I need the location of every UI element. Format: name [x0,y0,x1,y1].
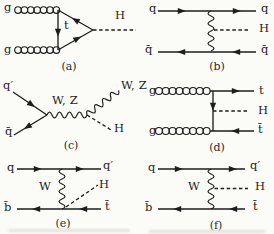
boson-wavy-line [208,11,214,51]
feynman-diagram-b-graphic [137,0,274,78]
panel-f: q q′ W H b̄ t̄ (f) [137,156,274,234]
particle-label-higgs: H [114,122,124,135]
particle-label-gluon-top: g [4,1,12,14]
boson-out-wavy [85,88,120,117]
w-boson-wavy-line [208,169,214,209]
scan-artifact [148,230,266,233]
particle-label-w-boson: W [188,180,200,193]
gluon-line-top [156,88,211,95]
particle-label-higgs: H [258,104,268,117]
particle-label-antitop-out: t̄ [258,123,263,136]
particle-label-higgs: H [115,9,125,22]
particle-label-quark-in: q [7,161,15,174]
panel-b: q q q̄ q̄ H (b) [137,0,274,78]
particle-label-higgs: H [99,178,109,191]
caption-b: (b) [209,60,225,73]
panel-d: g g t t̄ H (d) [137,78,274,156]
gluon-line-top [15,7,60,14]
boson-propagator-wavy [47,112,87,118]
particle-label-gluon-top: g [149,84,157,97]
feynman-diagram-d-graphic [137,78,274,156]
caption-d: (d) [209,141,225,154]
feynman-figure-canvas: g g t H (a) q q q̄ q̄ H (b) [0,0,274,234]
particle-label-antiquark-in: q̄ [145,43,153,56]
particle-label-antitop-out: t̄ [253,200,258,213]
particle-label-quark-out: q′ [103,159,113,172]
particle-label-antitop-out: t̄ [105,200,110,213]
particle-label-quark-out: q′ [250,159,260,172]
particle-label-antiquark-in: q̄ [5,125,13,138]
gluon-line-bottom [15,47,60,54]
particle-label-antiquark-out: q̄ [261,43,269,56]
higgs-dashed-line [66,185,98,207]
caption-a: (a) [61,60,76,73]
particle-label-quark-in: q′ [3,79,13,92]
panel-a: g g t H (a) [0,0,140,78]
panel-c: q′ q̄ W, Z W, Z H (c) [0,78,160,156]
particle-label-higgs: H [255,180,265,193]
particle-label-antibottom-in: b̄ [145,201,153,214]
particle-label-antibottom-in: b̄ [4,201,12,214]
fermion-arrowheads [22,100,36,132]
particle-label-quark-in: q [149,2,157,15]
gluon-line-bottom [156,128,211,135]
caption-c: (c) [64,139,79,152]
particle-label-gluon-bottom: g [4,43,12,56]
w-boson-wavy-line [59,169,65,209]
particle-label-higgs: H [259,22,269,35]
particle-label-top-out: t [259,84,264,97]
scan-artifact [8,229,130,232]
panel-e: q q′ W H b̄ t̄ (e) [0,156,137,234]
particle-label-boson-propagator: W, Z [52,94,78,107]
particle-label-quark-out: q [261,2,269,15]
particle-label-w-boson: W [39,180,51,193]
particle-label-gluon-bottom: g [149,124,157,137]
particle-label-loop-quark: t [64,19,69,32]
higgs-dashed-line [87,115,112,131]
particle-label-quark-in: q [148,161,156,174]
